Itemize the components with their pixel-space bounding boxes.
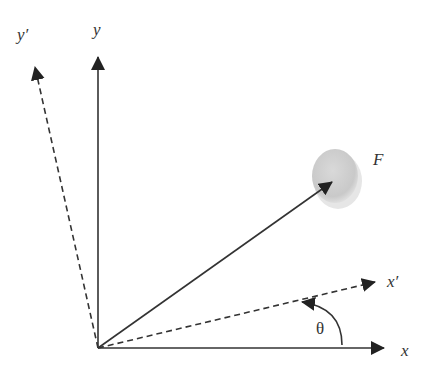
x-prime-axis [98, 282, 375, 348]
y-prime-label: y′ [15, 25, 29, 44]
y-prime-axis [35, 67, 98, 348]
coordinate-diagram: y′ y F x′ x θ [0, 0, 434, 374]
force-ball [312, 149, 362, 209]
theta-label: θ [316, 319, 324, 338]
y-label: y [91, 20, 101, 39]
force-label: F [372, 150, 384, 169]
x-label: x [400, 341, 409, 360]
force-vector [98, 182, 332, 348]
x-prime-label: x′ [386, 272, 399, 291]
